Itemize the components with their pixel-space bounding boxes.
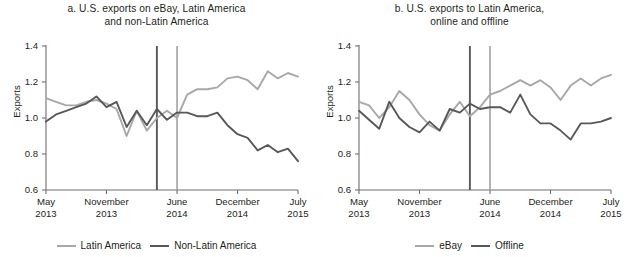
- legend-line-swatch-icon: [471, 245, 490, 247]
- legend-label: Non-Latin America: [174, 240, 256, 251]
- legend-line-swatch-icon: [57, 245, 76, 247]
- panel-b-y-tick-1.0: 1.0: [323, 112, 351, 123]
- x-tick-month: November: [397, 196, 441, 207]
- panel-b-x-tick-july-2015: July2015: [572, 196, 627, 219]
- x-tick-month: December: [215, 196, 259, 207]
- panel-a-plot-area: Exports 0.60.81.01.21.4 May2013November2…: [0, 0, 313, 257]
- panel-a-reference-lines: [157, 46, 177, 190]
- legend-entry-latin-america[interactable]: Latin America: [57, 240, 142, 251]
- panel-a-x-tick-november-2013: November2013: [67, 196, 145, 219]
- panel-a-y-tick-1.4: 1.4: [10, 40, 38, 51]
- x-tick-month: November: [84, 196, 128, 207]
- panel-a-y-tick-0.8: 0.8: [10, 148, 38, 159]
- panel-a-y-tick-0.6: 0.6: [10, 184, 38, 195]
- x-tick-month: June: [480, 196, 501, 207]
- x-tick-year: 2013: [380, 208, 458, 220]
- panel-b-plot-area: Exports 0.60.81.01.21.4 May2013November2…: [313, 0, 626, 257]
- panel-b-y-tick-0.6: 0.6: [323, 184, 351, 195]
- panel-a-y-tick-1.0: 1.0: [10, 112, 38, 123]
- panel-b-y-tick-0.8: 0.8: [323, 148, 351, 159]
- x-tick-month: May: [350, 196, 368, 207]
- x-tick-month: December: [528, 196, 572, 207]
- chart-panel-a: a. U.S. exports on eBay, Latin America a…: [0, 0, 313, 257]
- chart-panel-b: b. U.S. exports to Latin America, online…: [313, 0, 626, 257]
- x-tick-month: July: [289, 196, 306, 207]
- panel-b-reference-lines: [470, 46, 490, 190]
- panel-b-x-tick-november-2013: November2013: [380, 196, 458, 219]
- figure-container: a. U.S. exports on eBay, Latin America a…: [0, 0, 627, 257]
- panel-a-legend: Latin AmericaNon-Latin America: [0, 240, 313, 251]
- panel-a-series-lines: [46, 71, 298, 161]
- legend-label: eBay: [439, 240, 462, 251]
- legend-label: Latin America: [81, 240, 142, 251]
- panel-b-y-tick-1.2: 1.2: [323, 76, 351, 87]
- legend-entry-non-latin-america[interactable]: Non-Latin America: [150, 240, 256, 251]
- panel-a-y-tick-1.2: 1.2: [10, 76, 38, 87]
- panel-b-axes: [355, 45, 611, 194]
- legend-entry-ebay[interactable]: eBay: [415, 240, 462, 251]
- panel-b-series-lines: [359, 75, 611, 140]
- legend-label: Offline: [495, 240, 524, 251]
- x-tick-year: 2013: [67, 208, 145, 220]
- legend-entry-offline[interactable]: Offline: [471, 240, 524, 251]
- x-tick-month: July: [602, 196, 619, 207]
- panel-b-legend: eBayOffline: [313, 240, 626, 251]
- legend-line-swatch-icon: [415, 245, 434, 247]
- x-tick-month: June: [167, 196, 188, 207]
- x-tick-month: May: [37, 196, 55, 207]
- panel-a-axes: [42, 45, 298, 194]
- panel-b-y-tick-1.4: 1.4: [323, 40, 351, 51]
- x-tick-year: 2015: [572, 208, 627, 220]
- legend-line-swatch-icon: [150, 245, 169, 247]
